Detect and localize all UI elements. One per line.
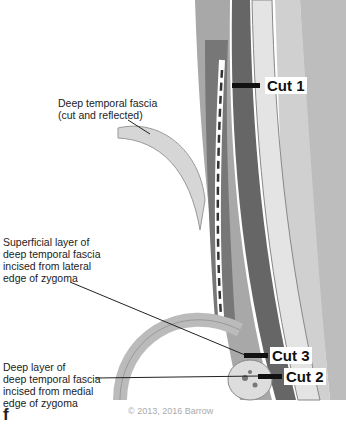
copyright: © 2013, 2016 Barrow [128,406,213,416]
cut-1-label: Cut 1 [265,77,307,94]
label-deep-temporal-fascia: Deep temporal fascia (cut and reflected) [58,97,157,121]
panel-letter: f [3,405,9,425]
cut-2-label: Cut 2 [284,368,326,385]
label-deep-layer: Deep layer of deep temporal fascia incis… [3,361,100,409]
label-superficial-layer: Superficial layer of deep temporal fasci… [3,236,100,284]
cut-3-label: Cut 3 [270,347,312,364]
